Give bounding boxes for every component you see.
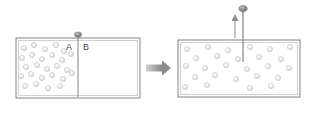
- panel-final-state: [178, 6, 300, 98]
- container-inner-wall-after: [181, 43, 298, 95]
- free-expansion-diagram: [0, 0, 315, 114]
- panel-initial-state: [16, 32, 140, 98]
- diagram-canvas: A B: [0, 0, 315, 114]
- compartment-label-b: B: [83, 43, 89, 52]
- partition-knob-removed-icon[interactable]: [239, 6, 247, 14]
- process-arrow-icon: [146, 61, 171, 76]
- compartment-label-a: A: [66, 43, 72, 52]
- upward-motion-arrow-icon: [232, 14, 239, 38]
